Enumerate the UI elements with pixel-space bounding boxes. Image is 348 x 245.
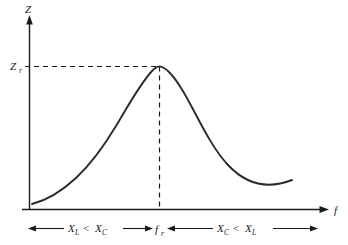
right-region-arrow-end	[310, 226, 318, 232]
impedance-curve	[32, 66, 292, 204]
left-region-arrow-start	[28, 226, 36, 232]
x-axis-title: f	[334, 204, 339, 216]
left-region-x-l-sub: L	[74, 228, 79, 237]
x-axis-arrowhead	[320, 206, 330, 213]
y-value-label-zr: Z r	[10, 60, 22, 75]
zr-base-label: Z	[10, 60, 17, 72]
zr-subscript-label: r	[19, 66, 22, 75]
y-axis-group	[26, 15, 33, 210]
fr-base-label: f	[155, 223, 160, 235]
right-region-arrow-start	[167, 226, 175, 232]
fr-subscript-label: r	[161, 229, 164, 238]
impedance-vs-frequency-figure: Z r Z f X L < X C f r	[0, 0, 348, 245]
x-axis-group	[22, 206, 329, 213]
right-region-dimension: X C < X L	[167, 222, 318, 237]
right-region-x-l-sub: L	[251, 228, 256, 237]
y-axis-title: Z	[25, 3, 32, 15]
right-region-operator: <	[233, 222, 239, 234]
left-region-x-c-sub: C	[102, 228, 108, 237]
x-value-label-fr: f r	[155, 223, 164, 238]
y-axis-arrowhead	[26, 15, 33, 25]
left-region-arrow-end	[145, 226, 153, 232]
left-region-operator: <	[83, 222, 89, 234]
left-region-dimension: X L < X C	[28, 222, 153, 237]
right-region-x-c-sub: C	[224, 228, 230, 237]
